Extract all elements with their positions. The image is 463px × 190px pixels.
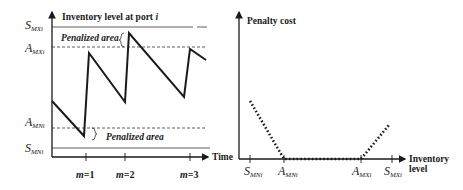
time-axis-label: Time <box>212 152 233 162</box>
s-min-label: SMNi <box>25 141 44 156</box>
tick-label-m2: m=2 <box>116 169 134 180</box>
a-min-label: AMNi <box>24 115 45 130</box>
lower-brace-icon <box>92 128 97 140</box>
inventory-level-axis-label-line1: Inventory <box>409 154 449 164</box>
s-max-label: SMXi <box>25 18 43 33</box>
inventory-level-axis-label-line2: level <box>409 164 428 174</box>
inventory-sawtooth-curve <box>52 33 206 136</box>
penalty-cost-curve <box>250 101 389 159</box>
tick-label-m1: m=1 <box>76 169 94 180</box>
tick-label-a-max: AMXi <box>351 164 371 179</box>
upper-penalized-area-label: Penalized area <box>61 33 119 43</box>
upper-brace-icon <box>119 33 124 47</box>
a-max-label: AMXi <box>24 41 44 56</box>
left-chart-title: Inventory level at port i <box>62 12 158 22</box>
tick-label-m3: m=3 <box>180 169 198 180</box>
tick-label-s-max: SMXi <box>384 164 402 179</box>
penalty-cost-axis-label: Penalty cost <box>247 16 297 26</box>
tick-label-s-min: SMNi <box>244 164 263 179</box>
tick-label-a-min: AMNi <box>277 164 298 179</box>
inventory-level-chart: Inventory level at port i SMXi AMXi AMNi… <box>24 12 233 180</box>
penalty-cost-chart: Penalty cost Inventory level SMNi AMNi A… <box>239 12 449 179</box>
lower-penalized-area-label: Penalized area <box>106 132 164 142</box>
diagram-canvas: Inventory level at port i SMXi AMXi AMNi… <box>0 0 463 190</box>
